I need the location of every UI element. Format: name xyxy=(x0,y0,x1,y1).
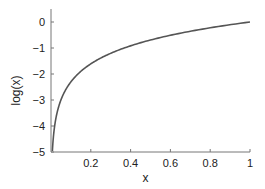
x-tick-label: 0.6 xyxy=(163,157,178,169)
y-tick-label: 0 xyxy=(39,16,45,28)
log-curve xyxy=(52,22,250,151)
x-tick-label: 1 xyxy=(247,157,253,169)
log-plot: 0−1−2−3−4−50.20.40.60.81 x log(x) xyxy=(0,0,265,189)
y-tick-label: −1 xyxy=(32,42,45,54)
y-axis-label: log(x) xyxy=(9,75,23,105)
y-tick-label: −3 xyxy=(32,94,45,106)
x-tick-label: 0.4 xyxy=(123,157,138,169)
y-tick-label: −4 xyxy=(32,120,45,132)
x-tick-label: 0.8 xyxy=(203,157,218,169)
y-tick-label: −2 xyxy=(32,68,45,80)
x-axis-label: x xyxy=(143,171,149,185)
y-tick-label: −5 xyxy=(32,146,45,158)
x-tick-label: 0.2 xyxy=(83,157,98,169)
